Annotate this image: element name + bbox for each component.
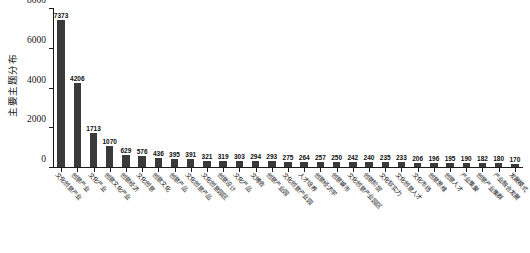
bar-value-label: 629 xyxy=(120,147,131,154)
bar[interactable] xyxy=(138,156,145,167)
bar[interactable] xyxy=(446,163,453,167)
bar-value-label: 294 xyxy=(250,153,261,160)
bar-value-label: 206 xyxy=(412,155,423,162)
bar-value-label: 1070 xyxy=(102,138,116,145)
bar[interactable] xyxy=(155,158,162,167)
bar-value-label: 1713 xyxy=(86,125,100,132)
bar-value-label: 264 xyxy=(299,154,310,161)
bar[interactable] xyxy=(203,161,210,167)
bar-value-label: 250 xyxy=(331,154,342,161)
y-tick-label: 8000 xyxy=(27,0,46,5)
bar[interactable] xyxy=(511,164,518,167)
bar-value-label: 321 xyxy=(202,153,213,160)
bar[interactable] xyxy=(219,161,226,167)
bar-value-label: 395 xyxy=(169,151,180,158)
bar[interactable] xyxy=(57,20,64,167)
y-axis-line xyxy=(53,8,54,167)
bar[interactable] xyxy=(430,163,437,167)
bar-value-label: 190 xyxy=(461,155,472,162)
y-tick-label: 0 xyxy=(41,154,46,164)
bar-value-label: 576 xyxy=(137,148,148,155)
bar[interactable] xyxy=(236,161,243,167)
bar[interactable] xyxy=(90,133,97,167)
bar[interactable] xyxy=(495,163,502,167)
y-axis-tick-labels: 02000400060008000 xyxy=(18,0,50,170)
bar[interactable] xyxy=(398,162,405,167)
bar-value-label: 436 xyxy=(153,150,164,157)
bar-value-label: 240 xyxy=(364,154,375,161)
bar[interactable] xyxy=(74,83,81,167)
bar-value-label: 180 xyxy=(493,155,504,162)
y-tick-label: 6000 xyxy=(27,35,46,45)
bar-value-label: 275 xyxy=(283,154,294,161)
y-tick-mark xyxy=(49,88,53,89)
bar[interactable] xyxy=(349,162,356,167)
bar-value-label: 391 xyxy=(185,151,196,158)
bar[interactable] xyxy=(122,155,129,168)
bar-value-label: 4206 xyxy=(70,75,84,82)
bar[interactable] xyxy=(479,163,486,167)
y-axis-title-text: 主要主题分布 xyxy=(4,54,18,117)
bar[interactable] xyxy=(382,162,389,167)
bar-value-label: 195 xyxy=(445,155,456,162)
y-tick-label: 2000 xyxy=(27,114,46,124)
x-axis-category-labels: 文化创意产业创意产业文化产业创意文化产业创意经济文化创意创意文化创意产品文化创意… xyxy=(53,170,530,253)
bar[interactable] xyxy=(414,163,421,167)
bar[interactable] xyxy=(187,159,194,167)
y-tick-label: 4000 xyxy=(27,75,46,85)
bar-value-label: 319 xyxy=(218,153,229,160)
bar[interactable] xyxy=(317,162,324,167)
bar[interactable] xyxy=(463,163,470,167)
bar-value-label: 235 xyxy=(380,154,391,161)
bar[interactable] xyxy=(268,161,275,167)
bar-chart-figure: 主要主题分布 02000400060008000 737342061713107… xyxy=(0,0,530,253)
bar-value-label: 182 xyxy=(477,155,488,162)
bar[interactable] xyxy=(106,146,113,167)
bar[interactable] xyxy=(252,161,259,167)
bar[interactable] xyxy=(171,159,178,167)
bar-value-label: 293 xyxy=(266,153,277,160)
bar-value-label: 170 xyxy=(509,156,520,163)
bar-value-label: 233 xyxy=(396,154,407,161)
bar-value-label: 242 xyxy=(347,154,358,161)
y-tick-mark xyxy=(49,48,53,49)
plot-area: 7373420617131070629576436395391321319303… xyxy=(53,8,523,167)
bar-value-label: 303 xyxy=(234,153,245,160)
bar-value-label: 257 xyxy=(315,154,326,161)
bar[interactable] xyxy=(365,162,372,167)
bar-value-label: 196 xyxy=(428,155,439,162)
y-tick-mark xyxy=(49,8,53,9)
bar-value-label: 7373 xyxy=(54,12,68,19)
bar[interactable] xyxy=(300,162,307,167)
bar[interactable] xyxy=(284,162,291,167)
bar[interactable] xyxy=(333,162,340,167)
y-tick-mark xyxy=(49,127,53,128)
y-tick-mark xyxy=(49,167,53,168)
